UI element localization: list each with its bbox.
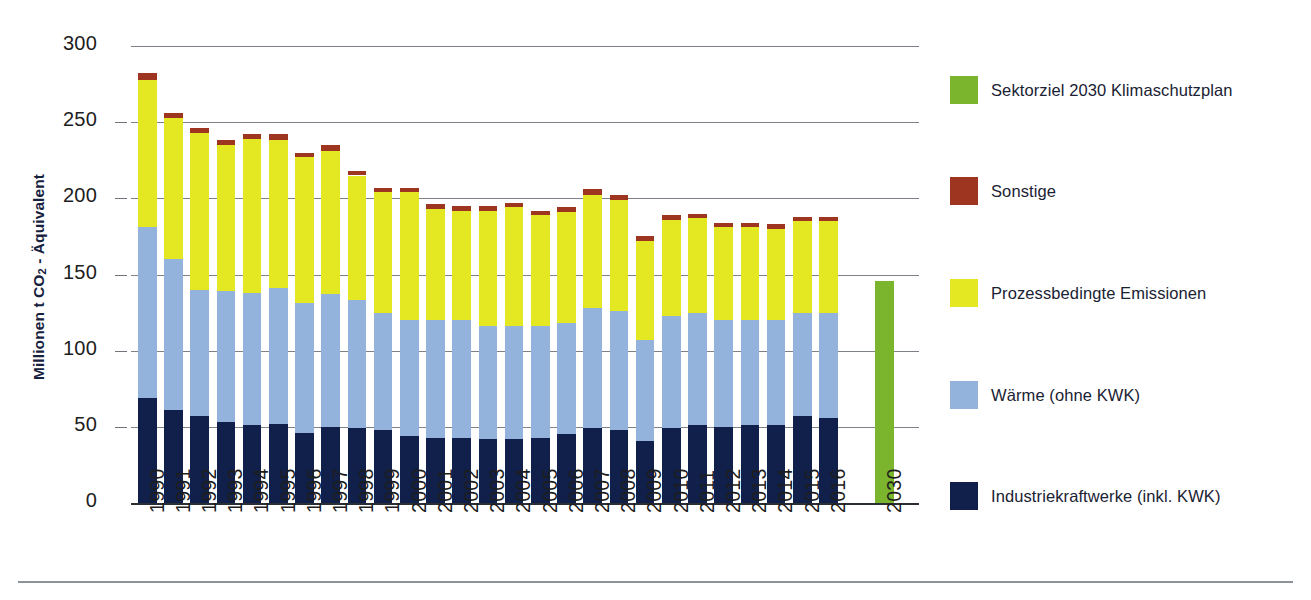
bar-1995[interactable] <box>269 46 288 503</box>
bar-2012[interactable] <box>714 46 733 503</box>
bar-segment <box>321 145 340 151</box>
bar-2013[interactable] <box>741 46 760 503</box>
bar-1999[interactable] <box>374 46 393 503</box>
bar-2004[interactable] <box>505 46 524 503</box>
y-tick-150 <box>115 275 127 276</box>
x-axis-label-1996: 1996 <box>303 468 326 513</box>
legend-item-4[interactable]: Wärme (ohne KWK) <box>950 381 1140 409</box>
bar-segment <box>269 140 288 288</box>
bar-segment <box>819 313 838 418</box>
bar-2030[interactable] <box>875 46 894 503</box>
bar-2000[interactable] <box>400 46 419 503</box>
bar-2016[interactable] <box>819 46 838 503</box>
bars-layer <box>137 46 919 503</box>
y-axis-label-300: 300 <box>7 32 97 55</box>
bar-1998[interactable] <box>348 46 367 503</box>
x-axis-label-1997: 1997 <box>329 468 352 513</box>
bar-2014[interactable] <box>767 46 786 503</box>
bar-1994[interactable] <box>243 46 262 503</box>
x-axis-label-2011: 2011 <box>696 470 719 513</box>
bar-segment <box>217 145 236 291</box>
x-axis-label-2030: 2030 <box>883 468 906 513</box>
bar-2010[interactable] <box>662 46 681 503</box>
legend-swatch-icon <box>950 381 978 409</box>
bar-2015[interactable] <box>793 46 812 503</box>
bar-segment <box>452 211 471 321</box>
bar-segment <box>452 320 471 437</box>
bar-segment <box>426 320 445 437</box>
bar-segment <box>479 206 498 211</box>
bar-segment <box>714 223 733 228</box>
bar-2002[interactable] <box>452 46 471 503</box>
legend-label: Sektorziel 2030 Klimaschutzplan <box>991 81 1233 100</box>
bar-segment <box>295 153 314 158</box>
bar-2008[interactable] <box>610 46 629 503</box>
bar-segment <box>190 133 209 290</box>
bar-segment <box>741 223 760 228</box>
x-axis-label-1994: 1994 <box>250 468 273 513</box>
bar-segment <box>190 128 209 133</box>
bar-segment <box>688 313 707 426</box>
x-axis-label-1991: 1991 <box>172 468 195 513</box>
x-axis-label-2014: 2014 <box>774 468 797 513</box>
bar-segment <box>793 217 812 222</box>
bar-segment <box>636 241 655 340</box>
bar-segment <box>583 308 602 428</box>
bar-1996[interactable] <box>295 46 314 503</box>
x-axis-label-2002: 2002 <box>460 468 483 513</box>
legend-swatch-icon <box>950 482 978 510</box>
footer-rule <box>18 581 1293 583</box>
bar-segment <box>583 189 602 195</box>
legend-item-3[interactable]: Prozessbedingte Emissionen <box>950 279 1206 307</box>
bar-segment <box>636 340 655 441</box>
bar-segment <box>452 206 471 211</box>
bar-2001[interactable] <box>426 46 445 503</box>
bar-segment <box>243 139 262 293</box>
bar-1992[interactable] <box>190 46 209 503</box>
y-axis-label-250: 250 <box>7 108 97 131</box>
x-axis-label-2003: 2003 <box>486 468 509 513</box>
x-axis-label-2000: 2000 <box>408 468 431 513</box>
bar-2005[interactable] <box>531 46 550 503</box>
bar-1997[interactable] <box>321 46 340 503</box>
bar-1990[interactable] <box>138 46 157 503</box>
x-axis-label-2008: 2008 <box>617 468 640 513</box>
bar-segment <box>688 218 707 312</box>
y-axis-label-200: 200 <box>7 184 97 207</box>
bar-segment <box>741 320 760 425</box>
bar-segment <box>243 293 262 426</box>
legend-item-1[interactable]: Sektorziel 2030 Klimaschutzplan <box>950 76 1233 104</box>
bar-2003[interactable] <box>479 46 498 503</box>
bar-segment <box>295 157 314 303</box>
legend-label: Industriekraftwerke (inkl. KWK) <box>991 487 1221 506</box>
legend-swatch-icon <box>950 76 978 104</box>
bar-1993[interactable] <box>217 46 236 503</box>
x-axis-label-2013: 2013 <box>748 468 771 513</box>
bar-segment <box>505 203 524 208</box>
bar-segment <box>531 211 550 216</box>
bar-2006[interactable] <box>557 46 576 503</box>
bar-segment <box>138 227 157 398</box>
x-axis-label-1995: 1995 <box>277 468 300 513</box>
legend-item-2[interactable]: Sonstige <box>950 177 1056 205</box>
x-axis-label-2005: 2005 <box>539 468 562 513</box>
bar-2007[interactable] <box>583 46 602 503</box>
legend-item-5[interactable]: Industriekraftwerke (inkl. KWK) <box>950 482 1221 510</box>
bar-2011[interactable] <box>688 46 707 503</box>
bar-segment <box>610 195 629 200</box>
bar-1991[interactable] <box>164 46 183 503</box>
bar-segment <box>793 221 812 312</box>
legend-label: Sonstige <box>991 182 1056 201</box>
bar-2009[interactable] <box>636 46 655 503</box>
bar-segment <box>426 209 445 320</box>
y-axis-label-100: 100 <box>7 337 97 360</box>
bar-segment <box>767 229 786 320</box>
bar-segment <box>348 300 367 428</box>
bar-segment <box>164 113 183 118</box>
bar-segment <box>531 326 550 437</box>
bar-segment <box>426 204 445 209</box>
bar-segment <box>295 303 314 432</box>
x-axis-label-2010: 2010 <box>670 468 693 513</box>
legend-swatch-icon <box>950 177 978 205</box>
legend-label: Wärme (ohne KWK) <box>991 386 1140 405</box>
